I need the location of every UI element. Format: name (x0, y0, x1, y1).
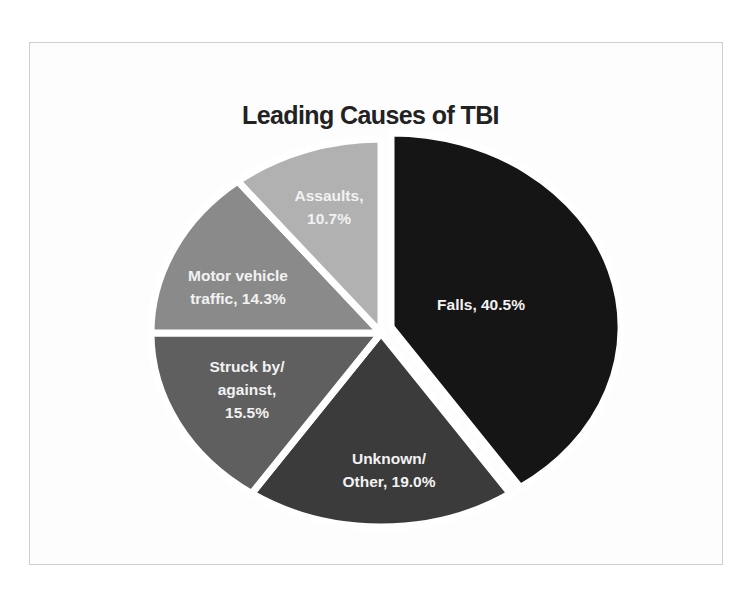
label-line: against, (210, 378, 285, 401)
label-assaults: Assaults, 10.7% (295, 184, 364, 230)
pie-chart (0, 0, 741, 592)
label-line: Assaults, (295, 184, 364, 207)
label-line: Other, 19.0% (342, 470, 435, 493)
label-line: Motor vehicle (188, 264, 288, 287)
label-motor-vehicle-traffic: Motor vehicle traffic, 14.3% (188, 264, 288, 310)
label-line: 15.5% (210, 401, 285, 424)
label-struck-by-against: Struck by/ against, 15.5% (210, 355, 285, 424)
label-falls: Falls, 40.5% (437, 293, 525, 316)
label-unknown-other: Unknown/ Other, 19.0% (342, 447, 435, 493)
label-line: Falls, 40.5% (437, 293, 525, 316)
label-line: Unknown/ (342, 447, 435, 470)
label-line: traffic, 14.3% (188, 287, 288, 310)
label-line: Struck by/ (210, 355, 285, 378)
label-line: 10.7% (295, 207, 364, 230)
